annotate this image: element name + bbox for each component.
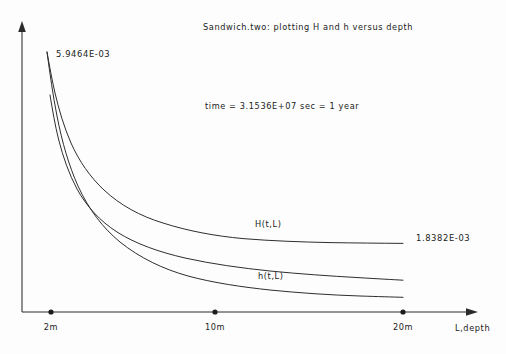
tick-label-2m: 2m <box>44 322 58 332</box>
curve-lower-h <box>47 52 403 297</box>
curve-label-upper: H(t,L) <box>255 219 282 229</box>
end-value-label: 1.8382E-03 <box>416 233 470 243</box>
curve-lower-h-main <box>50 95 403 280</box>
x-axis-label: L,depth <box>455 323 490 333</box>
curve-label-lower: h(t,L) <box>258 271 284 281</box>
curve-upper-H <box>47 52 403 243</box>
tick-label-10m: 10m <box>205 322 225 332</box>
tick-dot-2m <box>48 309 53 314</box>
tick-dot-10m <box>212 309 217 314</box>
x-axis-arrow-icon <box>466 308 478 316</box>
tick-label-20m: 20m <box>393 322 413 332</box>
plot-title: Sandwich.two: plotting H and h versus de… <box>203 22 413 32</box>
time-annotation: time = 3.1536E+07 sec = 1 year <box>205 101 359 111</box>
tick-dot-20m <box>400 309 405 314</box>
plot-figure: Sandwich.two: plotting H and h versus de… <box>0 0 506 354</box>
plot-canvas: Sandwich.two: plotting H and h versus de… <box>0 0 506 354</box>
y-axis-arrow-icon <box>18 21 26 32</box>
start-value-label: 5.9464E-03 <box>56 49 110 59</box>
